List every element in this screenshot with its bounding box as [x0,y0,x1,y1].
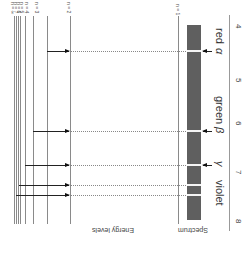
level-line-n-3 [33,16,34,224]
axis-tick-8: 8 [234,219,243,223]
transition-arrow-delta [19,185,69,186]
level-label-n-3: n = 3 [34,2,40,13]
spectrum-title: Spectrum [178,227,208,234]
label-green: green [214,96,226,124]
ground-level-line [178,16,179,224]
marker-arrow-beta [203,131,212,132]
hydrogen-spectrum-diagram: n = ∞ n = 7 n = 6 n = 5 n = 4 n = 3 n = … [0,0,248,271]
projection-line-gamma [71,165,188,166]
level-line-n-6 [18,16,19,224]
spectral-line-delta [187,184,201,186]
axis-tick-7: 7 [234,170,243,174]
label-beta: β [214,127,226,133]
spectral-line-epsilon [187,194,201,196]
marker-arrow-gamma [203,165,212,166]
level-label-n-1: n = 1 [175,4,181,15]
label-alpha: α [214,48,226,54]
transition-arrow-alpha [47,51,69,52]
projection-line-delta [71,185,188,186]
spectral-line-beta [187,130,201,132]
transition-arrow-gamma [25,165,69,166]
level-line-n-7 [16,16,17,224]
level-line-n-5 [20,16,21,224]
level-label-n-4: n = 4 [24,2,30,13]
level-line-n-inf [14,16,15,224]
axis-tick-4: 4 [234,24,243,28]
transition-arrow-beta [33,131,69,132]
spectral-line-gamma [187,164,201,166]
label-gamma: γ [214,161,226,167]
spectrum-bar [187,25,201,220]
label-red: red [214,28,226,44]
level-line-n-4 [25,16,26,224]
axis-tick-5: 5 [234,78,243,82]
transition-arrow-epsilon [16,195,69,196]
projection-line-alpha [71,51,188,52]
axis-tick-6: 6 [234,121,243,125]
projection-line-beta [71,131,188,132]
energy-levels-title: Energy levels [92,227,134,234]
projection-line-epsilon [71,195,188,196]
level-label-n-2: n = 2 [66,2,72,13]
label-violet: violet [214,180,226,206]
marker-arrow-alpha [203,51,212,52]
level-line-n-2 [47,16,48,224]
level-line-n-1 [70,16,71,224]
spectral-line-alpha [187,50,201,52]
wavelength-axis [229,15,230,231]
